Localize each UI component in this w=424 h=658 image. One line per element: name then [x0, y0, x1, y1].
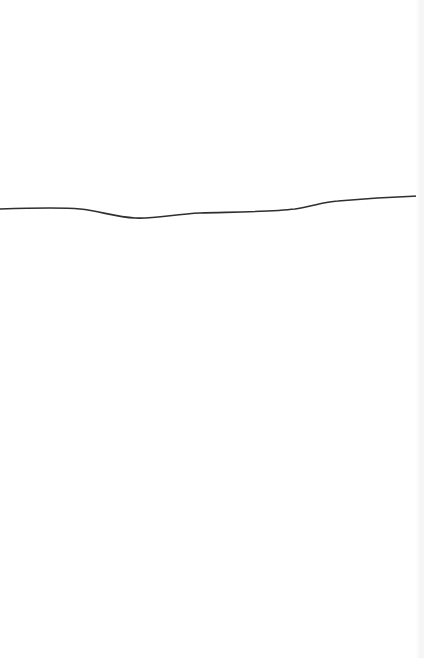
wavy-line-stroke	[0, 196, 418, 218]
blank-page	[0, 0, 424, 658]
page-edge-shadow	[416, 0, 424, 658]
hand-drawn-line	[0, 0, 424, 658]
